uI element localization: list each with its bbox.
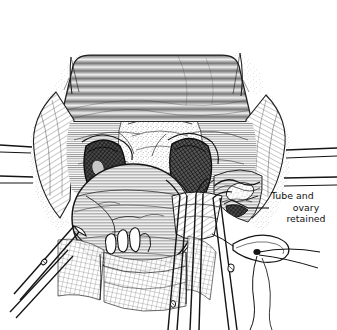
annotation-line-2: ovary (271, 202, 337, 214)
annotation-line-3: retained (271, 213, 337, 225)
bladder-flap (60, 55, 252, 122)
figure-page: 3 (0, 0, 337, 330)
annotation-line-1: Tube and (271, 190, 337, 202)
surgical-illustration (0, 0, 337, 330)
annotation-tube-and-ovary-retained: Tube and ovary retained (271, 190, 337, 225)
